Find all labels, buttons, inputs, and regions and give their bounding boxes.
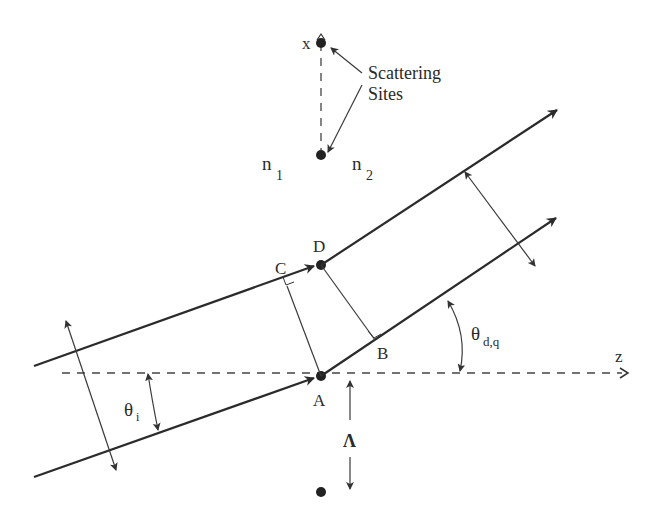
scattering-site-bottom [316,487,326,497]
svg-text:n: n [262,153,272,174]
incident-ray-lower [34,378,314,477]
svg-text:d,q: d,q [483,334,500,349]
z-axis [62,368,628,378]
theta-i-arc [148,374,158,430]
diagram-svg: x z Scattering Sites n 1 n 2 C D B A θ i… [0,0,660,523]
svg-text:2: 2 [366,168,373,183]
annotation-line1: Scattering [368,63,441,83]
incident-wavefront-arrow [66,321,116,470]
annotation-arrow-top [331,48,362,73]
svg-text:1: 1 [276,168,283,183]
theta-i-label: θ i [124,399,140,424]
point-a-label: A [313,391,326,410]
x-axis-label: x [302,34,311,53]
annotation-arrow-bottom [328,85,362,152]
theta-dq-label: θ d,q [471,323,500,349]
point-d-label: D [313,237,325,256]
scattering-site-top [316,38,326,48]
x-axis [317,34,325,150]
svg-text:θ: θ [124,399,133,420]
svg-text:n: n [352,153,362,174]
theta-dq-arc [448,301,462,371]
line-db [321,265,375,340]
scattering-site-upper [316,150,326,160]
point-b-label: B [377,344,388,363]
svg-text:i: i [136,410,140,424]
line-ac [287,286,321,376]
point-c-label: C [275,259,286,278]
medium-n2-label: n 2 [352,153,373,183]
annotation-line2: Sites [368,84,403,104]
period-label: Λ [343,431,356,451]
svg-text:θ: θ [471,323,480,344]
diffracted-wavefront-arrow [465,172,535,266]
right-angle-c-icon [283,277,294,285]
z-axis-label: z [615,347,623,366]
diagram-canvas: x z Scattering Sites n 1 n 2 C D B A θ i… [0,0,660,523]
medium-n1-label: n 1 [262,153,283,183]
